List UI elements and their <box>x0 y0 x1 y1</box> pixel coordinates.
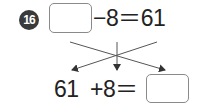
bottom-equation-text: +8＝ <box>90 76 138 102</box>
bottom-answer-box[interactable] <box>146 74 189 103</box>
bottom-left-number: 61 <box>54 76 79 102</box>
